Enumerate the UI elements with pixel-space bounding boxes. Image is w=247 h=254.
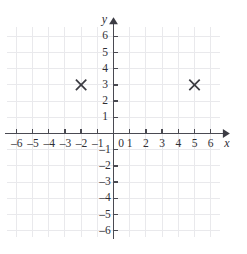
x-tick-label: –3	[59, 137, 72, 149]
y-tick-label: 6	[102, 29, 108, 41]
y-tick-label: 3	[102, 78, 108, 90]
tick-labels: –6–5–4–3–2–10123456654321–1–2–3–4–5–6xy	[10, 12, 230, 236]
x-tick-label: –5	[26, 137, 39, 149]
x-tick-label: 6	[208, 137, 214, 149]
x-tick-label: 5	[192, 137, 198, 149]
x-tick-label: –6	[10, 137, 23, 149]
y-tick-label: –2	[98, 159, 111, 171]
x-tick-label: 2	[143, 137, 149, 149]
coordinate-plane-svg: –6–5–4–3–2–10123456654321–1–2–3–4–5–6xy	[0, 0, 247, 254]
y-tick-label: –5	[98, 208, 111, 220]
y-tick-label: –3	[98, 175, 111, 187]
x-tick-label: –4	[42, 137, 55, 149]
x-tick-label: 1	[127, 137, 133, 149]
y-tick-label: 4	[102, 62, 108, 74]
x-tick-label: 3	[159, 137, 165, 149]
y-tick-label: –1	[98, 143, 111, 155]
y-tick-label: 5	[102, 46, 108, 58]
y-tick-label: 1	[102, 110, 108, 122]
y-tick-label: –6	[98, 224, 111, 236]
coordinate-plane-figure: –6–5–4–3–2–10123456654321–1–2–3–4–5–6xy	[0, 0, 247, 254]
y-axis-arrowhead	[109, 17, 118, 24]
axes	[5, 17, 230, 239]
y-tick-label: –4	[98, 191, 111, 203]
tick-label-origin: 0	[118, 137, 124, 149]
x-axis-label: x	[223, 136, 230, 150]
y-axis-label: y	[101, 12, 108, 26]
x-tick-label: –2	[75, 137, 88, 149]
y-tick-label: 2	[102, 94, 108, 106]
x-tick-label: 4	[175, 137, 181, 149]
